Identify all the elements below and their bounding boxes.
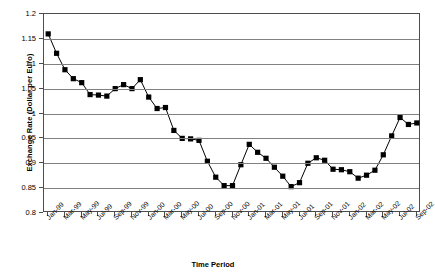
data-point-marker bbox=[71, 76, 76, 81]
y-axis-tick-label: 0.9 bbox=[0, 158, 36, 167]
y-axis-tick-label: 0.85 bbox=[0, 183, 36, 192]
data-point-marker bbox=[121, 82, 126, 87]
data-point-marker bbox=[96, 92, 101, 97]
gridline bbox=[44, 64, 419, 65]
gridline bbox=[44, 163, 419, 164]
data-point-marker bbox=[297, 180, 302, 185]
gridline bbox=[44, 138, 419, 139]
data-point-marker bbox=[54, 51, 59, 56]
data-point-marker bbox=[171, 128, 176, 133]
data-point-marker bbox=[364, 173, 369, 178]
y-axis-tick-label: 0.95 bbox=[0, 133, 36, 142]
data-point-marker bbox=[322, 158, 327, 163]
data-point-marker bbox=[330, 167, 335, 172]
y-axis-tick-mark bbox=[39, 212, 43, 213]
y-axis-tick-label: 0.8 bbox=[0, 208, 36, 217]
data-point-marker bbox=[138, 77, 143, 82]
data-point-marker bbox=[104, 93, 109, 98]
data-point-marker bbox=[146, 94, 151, 99]
data-point-marker bbox=[356, 176, 361, 181]
data-point-marker bbox=[406, 122, 411, 127]
data-point-marker bbox=[339, 167, 344, 172]
y-axis-tick-label: 1.15 bbox=[0, 34, 36, 43]
data-point-marker bbox=[397, 115, 402, 120]
data-point-marker bbox=[414, 120, 419, 125]
data-point-marker bbox=[247, 142, 252, 147]
y-axis-tick-label: 1 bbox=[0, 109, 36, 118]
data-point-marker bbox=[46, 31, 51, 36]
y-axis-tick-label: 1.1 bbox=[0, 59, 36, 68]
data-point-marker bbox=[272, 165, 277, 170]
data-point-marker bbox=[263, 156, 268, 161]
data-point-marker bbox=[87, 92, 92, 97]
data-point-marker bbox=[314, 155, 319, 160]
gridline bbox=[44, 114, 419, 115]
data-point-marker bbox=[79, 80, 84, 85]
plot-area bbox=[43, 13, 420, 212]
data-point-marker bbox=[62, 67, 67, 72]
data-point-marker bbox=[163, 105, 168, 110]
x-axis-title: Time Period bbox=[0, 260, 426, 269]
gridline bbox=[44, 89, 419, 90]
data-point-marker bbox=[372, 168, 377, 173]
data-point-marker bbox=[280, 174, 285, 179]
data-point-marker bbox=[155, 106, 160, 111]
data-point-marker bbox=[381, 152, 386, 157]
y-axis-tick-label: 1.05 bbox=[0, 84, 36, 93]
y-axis-tick-label: 1.2 bbox=[0, 9, 36, 18]
gridline bbox=[44, 39, 419, 40]
gridline bbox=[44, 188, 419, 189]
data-point-marker bbox=[347, 169, 352, 174]
data-point-marker bbox=[255, 150, 260, 155]
data-point-marker bbox=[213, 175, 218, 180]
